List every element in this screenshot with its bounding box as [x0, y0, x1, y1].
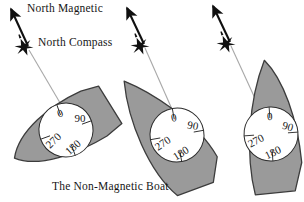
- compass-mark-90-left: 90: [75, 112, 87, 124]
- north-compass-label: North Compass: [38, 36, 112, 48]
- figure-caption: The Non-Magnetic Boat: [52, 180, 169, 192]
- north-magnetic-label: North Magnetic: [27, 2, 103, 14]
- non-magnetic-boat-diagram: 0 90 180 270 0 90 180 270 0 90 180 2: [0, 0, 304, 202]
